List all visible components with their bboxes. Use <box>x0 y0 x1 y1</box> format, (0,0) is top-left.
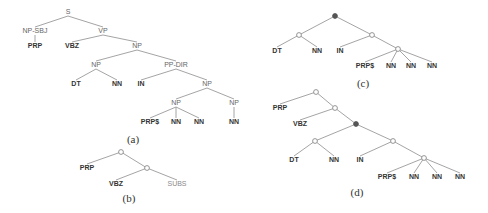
tree-edge <box>207 88 234 99</box>
open-node-icon <box>119 150 124 155</box>
node-label: NN <box>329 156 339 163</box>
tree-edge <box>398 49 432 62</box>
open-node-icon <box>314 90 319 95</box>
tree-edge <box>365 49 398 62</box>
node-label: PRP <box>80 164 95 171</box>
open-node-icon <box>145 166 150 171</box>
tree-edge <box>300 108 335 120</box>
tree-edges <box>35 16 460 180</box>
tree-edge <box>360 141 393 156</box>
tree-edge <box>96 69 117 80</box>
node-label: VP <box>98 27 108 34</box>
tree-edge <box>116 168 147 180</box>
tree-edge <box>299 16 335 35</box>
open-node-icon <box>297 33 302 38</box>
tree-edge <box>176 69 207 80</box>
tree-edge <box>316 92 335 108</box>
open-node-icon <box>333 106 338 111</box>
node-label: DT <box>272 47 282 54</box>
tree-edge <box>294 141 315 156</box>
open-node-icon <box>313 139 318 144</box>
node-label: VBZ <box>109 180 124 187</box>
open-node-icon <box>391 139 396 144</box>
tree-edge <box>176 88 207 99</box>
node-label: VBZ <box>65 42 80 49</box>
node-label: NN <box>386 62 396 69</box>
parse-tree-figure: SNP-SBJPRPVPVBZNPNPPP-DIRDTNNINNPNPNPPRP… <box>0 0 488 213</box>
tree-edge <box>335 16 372 35</box>
node-label: NN <box>194 118 204 125</box>
node-label: NP <box>202 80 212 87</box>
tree-edge <box>315 141 334 156</box>
node-label: PP-DIR <box>164 61 188 68</box>
open-node-icon <box>396 47 401 52</box>
tree-edge <box>424 158 460 173</box>
tree-edge <box>137 50 176 61</box>
tree-edge <box>280 92 316 104</box>
node-label: NN <box>455 173 465 180</box>
filled-node-icon <box>354 122 359 127</box>
node-label: SUBS <box>167 180 186 187</box>
node-label: DT <box>71 80 81 87</box>
node-label: NP <box>132 42 142 49</box>
node-label: IN <box>337 47 344 54</box>
subfigure-caption-b: (b) <box>123 192 136 205</box>
node-label: NN <box>427 62 437 69</box>
tree-edge <box>96 50 137 61</box>
node-label: NN <box>312 47 322 54</box>
node-label: NP <box>229 99 239 106</box>
tree-edge <box>150 107 176 118</box>
node-label: NN <box>409 173 419 180</box>
node-label: VBZ <box>293 120 308 127</box>
node-label: PRP$ <box>141 118 159 126</box>
node-label: DT <box>289 156 299 163</box>
node-label: NN <box>112 80 122 87</box>
open-node-icon <box>370 33 375 38</box>
tree-edge <box>315 124 356 141</box>
node-label: PRP <box>28 42 43 49</box>
subfigure-caption-c: (c) <box>357 77 370 90</box>
tree-edge <box>277 35 299 47</box>
tree-edge <box>356 124 393 141</box>
tree-edge <box>393 141 424 158</box>
node-label: IN <box>357 156 364 163</box>
tree-edge <box>35 16 68 27</box>
node-label: NN <box>171 118 181 125</box>
tree-edge <box>103 35 137 42</box>
tree-edge <box>176 107 199 118</box>
node-label: NN <box>406 62 416 69</box>
subfigure-caption-d: (d) <box>351 186 364 199</box>
tree-edge <box>147 168 177 180</box>
tree-edge <box>68 16 103 27</box>
tree-edge <box>121 152 147 168</box>
tree-edge <box>335 108 356 124</box>
node-label: PRP$ <box>356 62 374 70</box>
tree-edge <box>299 35 317 47</box>
filled-node-icon <box>333 14 338 19</box>
node-label: IN <box>138 80 145 87</box>
node-label: NP <box>91 61 101 68</box>
tree-edge <box>72 35 103 42</box>
node-label: PRP <box>273 104 288 111</box>
open-node-icon <box>422 156 427 161</box>
tree-edge <box>87 152 121 164</box>
tree-edge <box>387 158 424 173</box>
node-label: NP <box>171 99 181 106</box>
node-label: PRP$ <box>378 173 396 181</box>
node-label: NN <box>432 173 442 180</box>
subfigure-caption-a: (a) <box>127 133 140 146</box>
node-label: NP-SBJ <box>23 27 48 34</box>
subfigure-captions: (a)(b)(c)(d) <box>123 77 370 205</box>
tree-edge <box>76 69 96 80</box>
tree-edge <box>340 35 372 47</box>
tree-edge <box>372 35 398 49</box>
tree-nodes: SNP-SBJPRPVPVBZNPNPPP-DIRDTNNINNPNPNPPRP… <box>23 8 466 187</box>
node-label: NN <box>229 118 239 125</box>
node-label: S <box>66 8 71 15</box>
tree-edge <box>141 69 176 80</box>
